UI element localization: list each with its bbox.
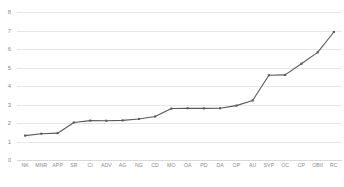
series-line [25,32,334,136]
x-axis-tick-label: SVP [264,163,275,168]
data-point-marker [138,118,140,120]
x-axis-tick-label: PD [200,163,207,168]
x-axis-tick-label: RC [330,163,338,168]
x-axis-tick-label: MNR [35,163,47,168]
x-axis-tick-label: APP [52,163,63,168]
data-point-marker [268,74,270,76]
data-point-marker [317,51,319,53]
data-series-layer [17,12,342,160]
data-point-marker [252,99,254,101]
y-axis-tick-label: 3 [8,102,11,108]
x-axis-tick-label: CD [151,163,159,168]
data-point-marker [73,121,75,123]
gridline [17,160,342,161]
y-axis-tick-label: 7 [8,28,11,34]
y-axis-tick-label: 2 [8,120,11,126]
data-point-marker [300,63,302,65]
data-point-marker [333,31,335,33]
data-point-marker [170,108,172,110]
data-point-marker [122,119,124,121]
plot-area [17,12,342,160]
y-axis-tick-label: 8 [8,9,11,15]
x-axis-tick-label: SR [70,163,77,168]
data-point-marker [219,107,221,109]
x-axis-tick-label: OA [184,163,192,168]
x-axis-tick-labels: NKMNRAPPSRCIADVAGNGCDMOOAPDDAOPAUSVPOCCP… [17,163,342,175]
data-point-marker [235,105,237,107]
x-axis-tick-label: OC [281,163,289,168]
data-point-marker [57,132,59,134]
x-axis-tick-label: DA [216,163,223,168]
data-point-marker [40,133,42,135]
line-chart: 012345678 NKMNRAPPSRCIADVAGNGCDMOOAPDDAO… [0,0,344,187]
data-point-marker [284,74,286,76]
y-axis-tick-label: 0 [8,157,11,163]
y-axis-tick-labels: 012345678 [0,12,15,160]
x-axis-tick-label: NK [21,163,28,168]
x-axis-tick-label: AU [249,163,256,168]
data-point-marker [24,135,26,137]
x-axis-tick-label: ADV [101,163,112,168]
y-axis-tick-label: 4 [8,83,11,89]
x-axis-tick-label: CI [87,163,92,168]
x-axis-tick-label: MO [167,163,176,168]
x-axis-tick-label: NG [135,163,143,168]
data-point-marker [187,107,189,109]
data-point-marker [154,115,156,117]
data-point-marker [105,120,107,122]
y-axis-tick-label: 6 [8,46,11,52]
y-axis-tick-label: 5 [8,65,11,71]
data-point-marker [203,107,205,109]
x-axis-tick-label: OP [233,163,241,168]
x-axis-tick-label: CP [298,163,305,168]
x-axis-tick-label: AG [119,163,127,168]
y-axis-tick-label: 1 [8,139,11,145]
data-point-marker [89,120,91,122]
x-axis-tick-label: OBII [312,163,323,168]
